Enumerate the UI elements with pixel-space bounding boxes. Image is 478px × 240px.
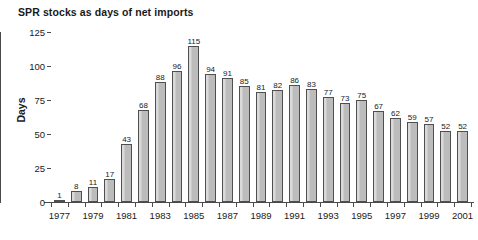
bar: 57: [424, 124, 435, 202]
bar-value-label: 75: [357, 91, 366, 100]
bar-value-label: 91: [223, 69, 232, 78]
x-tick-mark: [202, 202, 203, 207]
bar: 62: [390, 118, 401, 202]
x-tick-mark: [185, 202, 186, 207]
x-tick-mark: [219, 202, 220, 207]
bar: 77: [323, 97, 334, 202]
bar: 8: [71, 191, 82, 202]
bar: 73: [340, 103, 351, 202]
x-tick-mark: [337, 202, 338, 207]
y-tick-label: 25: [34, 163, 45, 174]
y-axis-title: Days: [15, 80, 27, 140]
bar-value-label: 52: [441, 122, 450, 131]
x-tick-mark: [236, 202, 237, 207]
y-tick-label: 75: [34, 95, 45, 106]
bar: 75: [356, 100, 367, 202]
bar-value-label: 96: [173, 62, 182, 71]
bar-value-label: 115: [187, 37, 200, 46]
bar-value-label: 59: [408, 113, 417, 122]
bar: 115: [188, 46, 199, 202]
bar-value-label: 82: [273, 81, 282, 90]
x-tick-mark: [68, 202, 69, 207]
x-tick-label: 1995: [351, 210, 372, 221]
x-tick-label: 1985: [183, 210, 204, 221]
bar: 94: [205, 74, 216, 202]
x-tick-mark: [85, 202, 86, 207]
bar-value-label: 77: [324, 88, 333, 97]
x-tick-mark: [370, 202, 371, 207]
bar-value-label: 67: [374, 102, 383, 111]
bar: 11: [88, 187, 99, 202]
bars-layer: 1811174368889611594918581828683777375676…: [51, 32, 471, 202]
bar-value-label: 52: [458, 122, 467, 131]
bar: 91: [222, 78, 233, 202]
x-tick-mark: [421, 202, 422, 207]
x-tick-mark: [320, 202, 321, 207]
x-tick-label: 1981: [116, 210, 137, 221]
bar-value-label: 86: [290, 76, 299, 85]
bar-value-label: 57: [425, 115, 434, 124]
x-tick-mark: [118, 202, 119, 207]
bar-value-label: 73: [341, 94, 350, 103]
x-tick-mark: [437, 202, 438, 207]
bar-value-label: 83: [307, 80, 316, 89]
bar-value-label: 68: [139, 101, 148, 110]
bar: 81: [256, 92, 267, 202]
bar: 43: [121, 144, 132, 202]
x-tick-mark: [286, 202, 287, 207]
x-tick-mark: [135, 202, 136, 207]
bar: 96: [172, 71, 183, 202]
x-tick-mark: [269, 202, 270, 207]
plot-area: 0255075100125 19771979198119831985198719…: [51, 32, 471, 202]
bar: 17: [104, 179, 115, 202]
bar: 52: [457, 131, 468, 202]
chart-title: SPR stocks as days of net imports: [18, 6, 193, 18]
x-tick-mark: [101, 202, 102, 207]
bar-value-label: 88: [156, 73, 165, 82]
y-axis-line: [0, 32, 1, 203]
y-tick-label: 0: [40, 197, 45, 208]
x-tick-label: 1983: [150, 210, 171, 221]
y-tick-label: 100: [29, 61, 45, 72]
x-tick-label: 1989: [250, 210, 271, 221]
bar-value-label: 17: [105, 170, 114, 179]
x-tick-label: 1999: [418, 210, 439, 221]
x-tick-mark: [353, 202, 354, 207]
x-tick-mark: [253, 202, 254, 207]
x-axis-line: [44, 202, 474, 203]
x-tick-mark: [471, 202, 472, 207]
bar-value-label: 11: [89, 178, 97, 187]
x-tick-mark: [303, 202, 304, 207]
bar: 83: [306, 89, 317, 202]
bar-value-label: 85: [240, 77, 249, 86]
bar: 52: [440, 131, 451, 202]
x-tick-label: 1979: [82, 210, 103, 221]
y-tick-label: 125: [29, 27, 45, 38]
x-tick-mark: [152, 202, 153, 207]
bar-value-label: 94: [206, 65, 215, 74]
y-tick-label: 50: [34, 129, 45, 140]
bar-value-label: 1: [57, 191, 61, 200]
bar: 82: [272, 90, 283, 202]
x-tick-label: 1997: [385, 210, 406, 221]
bar: 67: [373, 111, 384, 202]
x-tick-mark: [169, 202, 170, 207]
x-tick-mark: [454, 202, 455, 207]
bar: 59: [407, 122, 418, 202]
bar-value-label: 43: [122, 135, 131, 144]
x-tick-label: 1977: [49, 210, 70, 221]
bar: 68: [138, 110, 149, 202]
bar-value-label: 81: [257, 83, 266, 92]
x-tick-mark: [51, 202, 52, 207]
bar-value-label: 8: [74, 182, 78, 191]
x-tick-label: 1987: [217, 210, 238, 221]
x-tick-mark: [387, 202, 388, 207]
x-tick-label: 1993: [318, 210, 339, 221]
bar: 85: [239, 86, 250, 202]
bar: 86: [289, 85, 300, 202]
x-tick-mark: [404, 202, 405, 207]
x-tick-label: 1991: [284, 210, 305, 221]
x-tick-label: 2001: [452, 210, 473, 221]
chart-screenshot: SPR stocks as days of net imports Days 0…: [0, 0, 478, 240]
bar: 1: [54, 200, 65, 202]
